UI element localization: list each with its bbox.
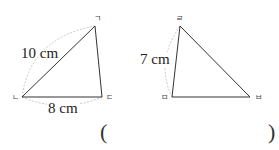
triangle-2 — [172, 26, 250, 97]
answer-close-paren: ) — [268, 121, 275, 143]
vertex-label-rieul: ㄹ — [176, 15, 183, 23]
vertex-label-giyeok: ㄱ — [94, 15, 101, 23]
vertex-label-digeut: ㄷ — [106, 94, 113, 102]
length-label-10cm: 10 cm — [21, 46, 58, 61]
length-label-7cm: 7 cm — [140, 52, 170, 67]
answer-open-paren: ( — [100, 121, 107, 143]
vertex-label-mieum: ㅁ — [161, 94, 168, 102]
answer-blank[interactable] — [112, 123, 267, 143]
length-label-8cm: 8 cm — [47, 101, 79, 116]
vertex-label-bieup: ㅂ — [255, 94, 262, 102]
vertex-label-nieun: ㄴ — [12, 94, 19, 102]
